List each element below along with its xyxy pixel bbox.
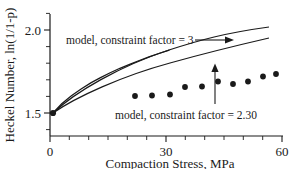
data-point	[167, 92, 173, 98]
data-point	[132, 93, 138, 99]
x-axis-title: Compaction Stress, MPa	[106, 156, 235, 169]
data-point	[230, 81, 236, 87]
x-tick-label-60: 60	[276, 144, 289, 159]
x-tick-label-0: 0	[47, 144, 54, 159]
y-axis-major-ticks	[44, 30, 50, 113]
model-curve-cf230	[53, 38, 269, 113]
data-point	[149, 93, 155, 99]
data-point	[215, 79, 221, 85]
data-point	[50, 110, 56, 116]
y-axis-title: Heckel Number, ln(1/1-p)	[2, 8, 17, 143]
y-tick-label-2-0: 2.0	[25, 23, 41, 38]
data-point	[182, 84, 188, 90]
upper-model-label: model, constraint factor = 3	[66, 34, 194, 47]
data-point	[260, 74, 266, 80]
heckel-plot-figure: 2.0 1.5 0 30 60 Compaction Stress, MPa H…	[0, 0, 290, 169]
chart-canvas: 2.0 1.5 0 30 60 Compaction Stress, MPa H…	[0, 0, 290, 169]
data-point	[199, 84, 205, 90]
data-point	[245, 79, 251, 85]
model-curve-cf3	[53, 50, 169, 113]
x-axis-major-ticks	[50, 136, 282, 142]
lower-model-label: model, constraint factor = 2.30	[115, 109, 257, 122]
y-tick-label-1-5: 1.5	[25, 106, 41, 121]
data-point	[273, 71, 279, 77]
